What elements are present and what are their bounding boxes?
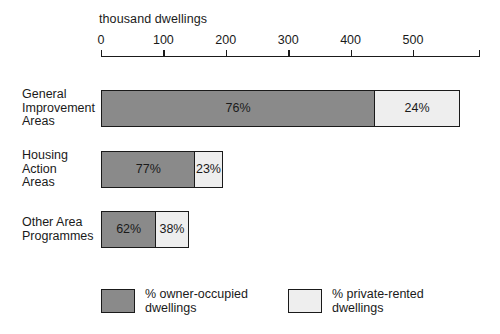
row-label: HousingActionAreas <box>22 149 98 190</box>
axis-tick-label-400: 400 <box>340 33 361 47</box>
axis-tick-label-0: 0 <box>98 33 105 47</box>
bar-segment-value-label: 76% <box>226 102 251 115</box>
axis-tick-labels: 0100200300400500 <box>0 33 500 49</box>
legend-label-line: % owner-occupied <box>145 288 248 302</box>
bar-segment-private-rented[interactable]: 38% <box>155 211 189 248</box>
row-label-line: Housing <box>22 149 98 163</box>
row-label-line: Improvement <box>22 102 98 116</box>
stacked-bar[interactable]: 76%24% <box>101 90 462 127</box>
axis-tick-mark-500 <box>413 50 414 57</box>
row-label-line: General <box>22 88 98 102</box>
axis-tick-mark-300 <box>288 50 289 57</box>
row-label-line: Programmes <box>22 230 98 244</box>
bar-segment-value-label: 23% <box>196 163 221 176</box>
chart-legend: % owner-occupieddwellings% private-rente… <box>0 288 500 328</box>
stacked-bar[interactable]: 77%23% <box>101 151 224 188</box>
legend-item-owner-occupied[interactable]: % owner-occupieddwellings <box>101 288 248 315</box>
row-label: GeneralImprovementAreas <box>22 88 98 129</box>
row-label: Other AreaProgrammes <box>22 216 98 243</box>
axis-tick-label-300: 300 <box>278 33 299 47</box>
axis-line <box>101 56 480 57</box>
legend-label-line: % private-rented <box>332 288 424 302</box>
axis-tick-mark-100 <box>163 50 164 57</box>
bar-segment-owner-occupied[interactable]: 76% <box>101 90 375 127</box>
bar-segment-value-label: 62% <box>116 223 141 236</box>
axis-tick-mark-0 <box>101 50 102 57</box>
bar-segment-value-label: 77% <box>136 163 161 176</box>
axis-tick-label-200: 200 <box>215 33 236 47</box>
row-label-line: Areas <box>22 115 98 129</box>
bar-segment-owner-occupied[interactable]: 77% <box>101 151 196 188</box>
row-label-line: Other Area <box>22 216 98 230</box>
legend-swatch <box>101 289 135 313</box>
legend-swatch <box>288 289 322 313</box>
axis-end-cap <box>479 50 480 57</box>
legend-label-line: dwellings <box>145 302 248 316</box>
legend-label: % private-renteddwellings <box>332 288 424 315</box>
stacked-bar-chart: thousand dwellings 0100200300400500 Gene… <box>0 0 500 334</box>
axis-tick-mark-200 <box>226 50 227 57</box>
row-label-line: Action <box>22 163 98 177</box>
bar-segment-value-label: 24% <box>405 102 430 115</box>
row-label-line: Areas <box>22 176 98 190</box>
axis-tick-label-100: 100 <box>153 33 174 47</box>
bar-segment-private-rented[interactable]: 24% <box>374 90 461 127</box>
legend-item-private-rented[interactable]: % private-renteddwellings <box>288 288 424 315</box>
legend-label: % owner-occupieddwellings <box>145 288 248 315</box>
bar-segment-owner-occupied[interactable]: 62% <box>101 211 156 248</box>
axis-tick-label-500: 500 <box>403 33 424 47</box>
stacked-bar[interactable]: 62%38% <box>101 211 190 248</box>
axis-tick-mark-400 <box>351 50 352 57</box>
axis-title: thousand dwellings <box>99 12 207 26</box>
legend-label-line: dwellings <box>332 302 424 316</box>
bar-segment-private-rented[interactable]: 23% <box>194 151 222 188</box>
bar-segment-value-label: 38% <box>159 223 184 236</box>
